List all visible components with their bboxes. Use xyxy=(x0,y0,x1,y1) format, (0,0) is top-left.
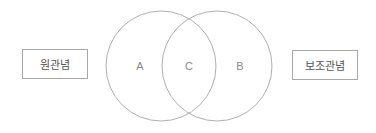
vehicle-concept-label: 보조관념 xyxy=(305,57,345,73)
region-b-label: B xyxy=(236,60,243,72)
region-c-label: C xyxy=(185,60,193,72)
region-a-label: A xyxy=(136,60,144,72)
left-circle xyxy=(106,11,216,121)
right-circle xyxy=(162,11,272,121)
vehicle-concept-box: 보조관념 xyxy=(292,50,358,80)
